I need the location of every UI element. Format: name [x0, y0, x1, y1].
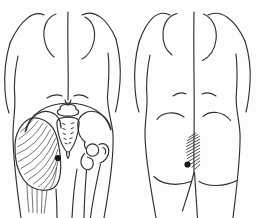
illustration-canvas	[0, 0, 261, 218]
anatomy-diagram	[0, 0, 261, 218]
trigger-point-marker	[184, 161, 190, 167]
trigger-point-marker	[55, 155, 61, 161]
